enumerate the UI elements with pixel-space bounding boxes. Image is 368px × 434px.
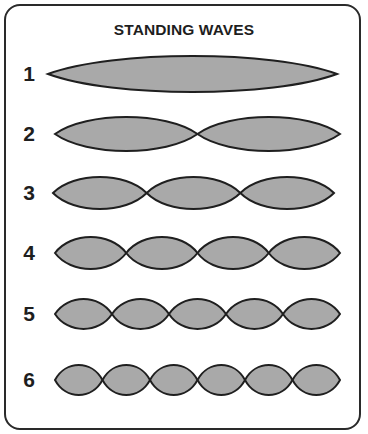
wave-harmonic-5: [55, 299, 340, 329]
wave-loop: [103, 365, 151, 395]
wave-harmonic-3: [53, 177, 334, 209]
wave-loop: [245, 365, 293, 395]
standing-waves-graphic: [0, 0, 368, 434]
wave-loop: [55, 365, 103, 395]
wave-harmonic-1: [48, 56, 337, 92]
wave-loop: [293, 365, 341, 395]
wave-loop: [269, 237, 340, 269]
wave-harmonic-6: [55, 365, 340, 395]
wave-loop: [48, 56, 337, 92]
wave-loop: [147, 177, 241, 209]
wave-harmonic-2: [55, 117, 340, 151]
wave-loop: [240, 177, 334, 209]
wave-loop: [198, 237, 269, 269]
wave-loop: [226, 299, 283, 329]
wave-loop: [283, 299, 340, 329]
wave-loop: [126, 237, 197, 269]
wave-loop: [150, 365, 198, 395]
wave-loop: [169, 299, 226, 329]
wave-loop: [55, 117, 198, 151]
wave-loop: [55, 237, 126, 269]
wave-loop: [198, 365, 246, 395]
wave-harmonic-4: [55, 237, 340, 269]
wave-loop: [55, 299, 112, 329]
wave-loop: [198, 117, 341, 151]
wave-loop: [112, 299, 169, 329]
wave-loop: [53, 177, 147, 209]
